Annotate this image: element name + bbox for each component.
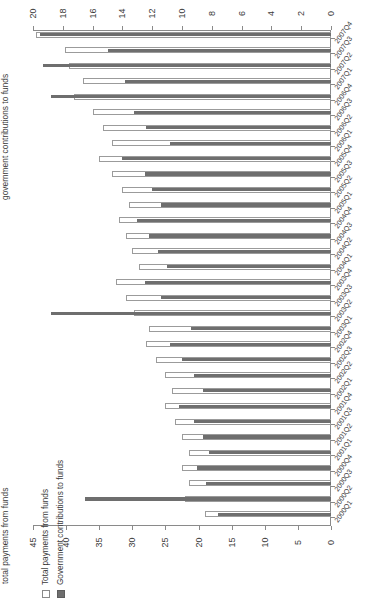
bar-gov-contributions[interactable] [206, 482, 331, 485]
bar-gov-contributions[interactable] [167, 265, 331, 268]
bar-gov-contributions[interactable] [152, 188, 331, 191]
top-tickmark [242, 26, 243, 30]
bar-row [33, 386, 331, 401]
bar-row [33, 324, 331, 339]
legend-label: Total payments from funds [41, 489, 50, 585]
bar-gov-contributions[interactable] [40, 33, 331, 36]
bar-gov-contributions[interactable] [158, 250, 331, 253]
bar-gov-contributions[interactable] [203, 389, 331, 392]
bottom-axis-title: total payments from funds [0, 384, 13, 584]
bottom-tickmark [132, 526, 133, 530]
bar-row [33, 76, 331, 91]
bottom-tick-45: 45 [28, 528, 39, 558]
legend-label: Government contributions to funds [56, 460, 65, 585]
bar-row [33, 463, 331, 478]
top-tick-6: 6 [236, 0, 247, 29]
bottom-tickmark [165, 526, 166, 530]
bar-row [33, 107, 331, 122]
bar-row [33, 123, 331, 138]
bar-row [33, 293, 331, 308]
top-tickmark [152, 26, 153, 30]
legend-item-1[interactable]: Government contributions to funds [53, 448, 68, 598]
bottom-tick-25: 25 [160, 528, 171, 558]
bar-gov-contributions[interactable] [209, 451, 331, 454]
top-tick-16: 16 [87, 0, 98, 29]
bar-row [33, 417, 331, 432]
legend-swatch-total [42, 590, 50, 598]
top-tickmark [93, 26, 94, 30]
bar-row [33, 308, 331, 323]
top-tick-10: 10 [177, 0, 188, 29]
bar-gov-contributions[interactable] [191, 327, 331, 330]
bar-gov-contributions[interactable] [161, 203, 331, 206]
bar-gov-contributions[interactable] [108, 49, 332, 52]
top-tick-2: 2 [296, 0, 307, 29]
bar-row [33, 355, 331, 370]
bottom-tickmark [99, 526, 100, 530]
bar-gov-contributions[interactable] [170, 142, 331, 145]
bar-row [33, 479, 331, 494]
top-tickmark [331, 26, 332, 30]
chart-legend[interactable]: Total payments from fundsGovernment cont… [38, 448, 72, 598]
bottom-tickmark [331, 526, 332, 530]
bar-row [33, 231, 331, 246]
bar-gov-contributions[interactable] [134, 111, 331, 114]
bar-row [33, 138, 331, 153]
top-tickmark [33, 26, 34, 30]
bar-gov-contributions[interactable] [203, 435, 331, 438]
bar-row [33, 154, 331, 169]
bar-gov-contributions[interactable] [51, 312, 331, 315]
top-tickmark [122, 26, 123, 30]
bottom-tickmark [199, 526, 200, 530]
bar-gov-contributions[interactable] [149, 234, 331, 237]
bar-row [33, 432, 331, 447]
bar-gov-contributions[interactable] [146, 126, 331, 129]
bottom-tick-20: 20 [193, 528, 204, 558]
bar-row [33, 61, 331, 76]
bar-row [33, 200, 331, 215]
top-tickmark [301, 26, 302, 30]
bar-gov-contributions[interactable] [137, 219, 331, 222]
top-tick-20: 20 [28, 0, 39, 29]
top-tickmark [63, 26, 64, 30]
bar-gov-contributions[interactable] [218, 513, 331, 516]
bar-gov-contributions[interactable] [51, 95, 331, 98]
top-tickmark [182, 26, 183, 30]
bottom-tick-5: 5 [292, 528, 303, 558]
bar-gov-contributions[interactable] [182, 358, 331, 361]
bar-gov-contributions[interactable] [170, 343, 331, 346]
top-tickmark [271, 26, 272, 30]
top-tick-4: 4 [266, 0, 277, 29]
bottom-tick-30: 30 [127, 528, 138, 558]
bar-gov-contributions[interactable] [145, 281, 331, 284]
bar-gov-contributions[interactable] [194, 420, 331, 423]
top-tick-0: 0 [326, 0, 337, 29]
bar-row [33, 247, 331, 262]
bar-gov-contributions[interactable] [85, 497, 331, 500]
bar-row [33, 370, 331, 385]
bar-row [33, 510, 331, 525]
bottom-tickmark [232, 526, 233, 530]
bar-gov-contributions[interactable] [122, 157, 331, 160]
bar-row [33, 262, 331, 277]
bar-row [33, 278, 331, 293]
bottom-tickmark [265, 526, 266, 530]
bar-gov-contributions[interactable] [161, 296, 331, 299]
bar-row [33, 494, 331, 509]
plot-area [33, 30, 331, 525]
bar-gov-contributions[interactable] [125, 80, 331, 83]
legend-item-0[interactable]: Total payments from funds [38, 448, 53, 598]
bar-gov-contributions[interactable] [145, 172, 331, 175]
bar-row [33, 45, 331, 60]
bar-gov-contributions[interactable] [43, 64, 331, 67]
bottom-tickmark [33, 526, 34, 530]
top-tick-12: 12 [147, 0, 158, 29]
bar-gov-contributions[interactable] [197, 466, 331, 469]
bar-gov-contributions[interactable] [194, 374, 331, 377]
bar-row [33, 448, 331, 463]
top-tickmark [212, 26, 213, 30]
bar-row [33, 339, 331, 354]
bar-gov-contributions[interactable] [179, 405, 331, 408]
top-tick-18: 18 [57, 0, 68, 29]
